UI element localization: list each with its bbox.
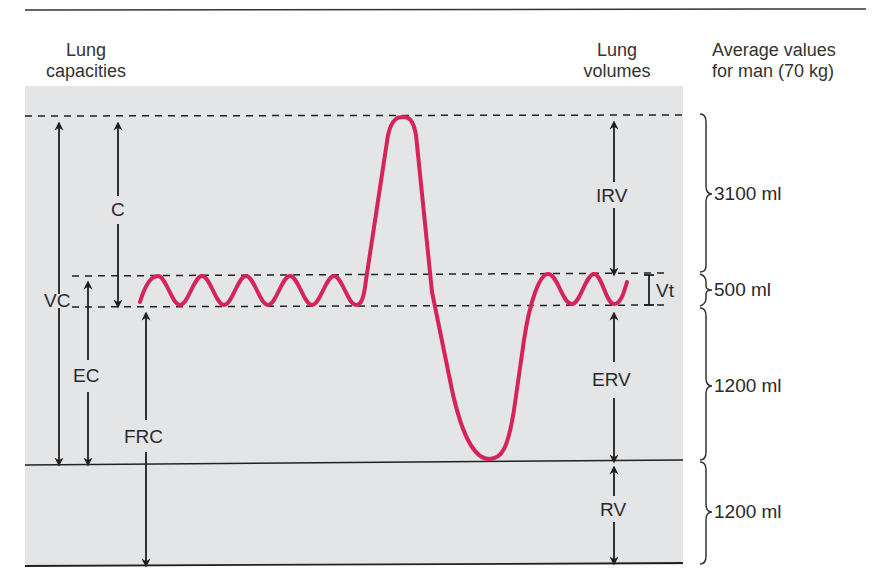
ec-label: EC: [73, 366, 99, 386]
header-line: for man (70 kg): [712, 61, 872, 82]
irv-value: 3100 ml: [714, 184, 782, 204]
top-rule: [25, 9, 866, 10]
brace-1200-erv: [700, 308, 712, 460]
vt-label: Vt: [656, 281, 674, 301]
irv-label: IRV: [596, 186, 627, 206]
vt-value: 500 ml: [714, 280, 771, 300]
average-values-header: Average values for man (70 kg): [712, 40, 872, 82]
frc-label: FRC: [124, 427, 163, 447]
vc-label: VC: [44, 291, 70, 311]
c-label: C: [111, 200, 125, 220]
erv-value: 1200 ml: [714, 376, 782, 396]
chart-panel: [25, 86, 683, 565]
erv-label: ERV: [592, 370, 631, 390]
lung-volumes-header: Lung volumes: [572, 40, 662, 82]
brace-500: [700, 274, 712, 306]
lung-capacities-header: Lung capacities: [26, 40, 146, 82]
header-line: capacities: [26, 61, 146, 82]
brace-1200-rv: [700, 462, 712, 564]
header-line: volumes: [572, 61, 662, 82]
rv-value: 1200 ml: [714, 502, 782, 522]
rv-label: RV: [600, 500, 626, 520]
header-line: Lung: [572, 40, 662, 61]
brace-3100: [700, 114, 712, 272]
header-line: Average values: [712, 40, 872, 61]
header-line: Lung: [26, 40, 146, 61]
